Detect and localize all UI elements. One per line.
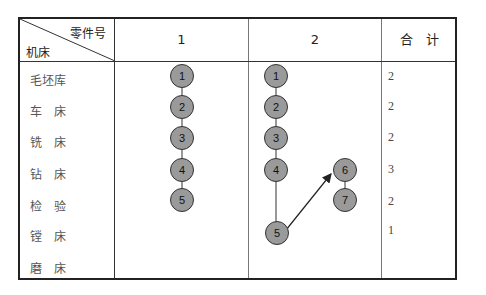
svg-text:3: 3	[179, 132, 185, 144]
svg-text:5: 5	[179, 194, 185, 206]
routing-flow-diagram: 1 2 3 4 5 1 2 3 4 5 6 7	[20, 19, 459, 282]
svg-text:2: 2	[273, 101, 279, 113]
svg-text:2: 2	[179, 101, 185, 113]
svg-text:4: 4	[273, 164, 279, 176]
svg-text:1: 1	[179, 70, 185, 82]
svg-text:5: 5	[274, 227, 280, 239]
svg-text:1: 1	[273, 70, 279, 82]
part-2-node: 1 2 3 4 5 6 7	[265, 65, 357, 245]
svg-text:6: 6	[342, 164, 348, 176]
svg-text:7: 7	[342, 194, 348, 206]
routing-table: 零件号 机床 1 2 合 计 毛坯库 车 床 铣 床 钻 床 检 验 镗 床 磨…	[18, 17, 457, 280]
svg-text:3: 3	[273, 132, 279, 144]
part-1-node: 1 2 3 4 5	[171, 65, 194, 212]
svg-text:4: 4	[179, 164, 185, 176]
